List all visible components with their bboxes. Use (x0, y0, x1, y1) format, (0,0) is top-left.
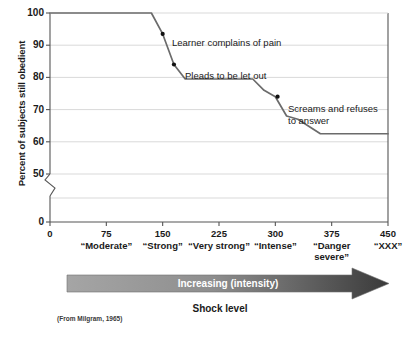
annotation-learner-complains: Learner complains of pain (172, 37, 281, 49)
axis-break-symbol (45, 174, 55, 196)
y-tick-marks (46, 13, 50, 222)
x-category-label-6: “XXX” (355, 240, 414, 251)
x-tick-label-300: 300 (245, 228, 305, 239)
annotation-screams-refuses: Screams and refuses to answer (288, 103, 378, 126)
y-tick-label-70: 70 (18, 105, 44, 115)
x-tick-label-75: 75 (76, 228, 136, 239)
y-tick-label-0: 0 (18, 217, 44, 227)
arrow-label: Increasing (intensity) (78, 278, 378, 289)
milgram-obedience-figure: Percent of subjects still obedient (0, 0, 414, 338)
x-axis-title: Shock level (55, 303, 385, 314)
x-tick-label-0: 0 (20, 228, 80, 239)
x-tick-marks (50, 222, 388, 226)
x-tick-label-225: 225 (189, 228, 249, 239)
y-tick-label-90: 90 (18, 40, 44, 50)
y-tick-label-50: 50 (18, 169, 44, 179)
source-citation: (From Milgram, 1965) (57, 315, 122, 322)
annotation-pleads-let-out: Pleads to be let out (185, 70, 266, 82)
y-tick-label-60: 60 (18, 137, 44, 147)
x-tick-label-150: 150 (133, 228, 193, 239)
x-tick-label-450: 450 (358, 228, 414, 239)
x-tick-label-375: 375 (302, 228, 362, 239)
y-tick-label-80: 80 (18, 72, 44, 82)
y-tick-label-100: 100 (18, 8, 44, 18)
